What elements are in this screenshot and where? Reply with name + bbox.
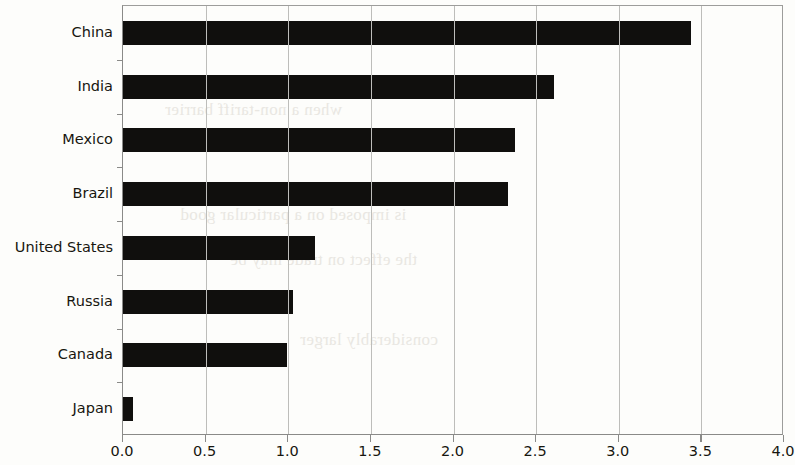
y-axis-category-labels: ChinaIndiaMexicoBrazilUnited StatesRussi… [0,5,113,435]
x-axis-tick [287,435,288,442]
x-axis-tick [535,435,536,442]
x-axis-tick [618,435,619,442]
y-axis-tick-label: India [0,78,113,94]
bar [123,21,691,45]
x-axis-tick [205,435,206,442]
y-axis-tick-label: Russia [0,293,113,309]
x-axis-tick [700,435,701,442]
x-axis-tick-label: 3.0 [606,443,629,459]
gridline [536,6,537,434]
y-axis-tick [117,114,123,115]
x-axis-tick-label: 3.5 [689,443,712,459]
x-axis-tick [122,435,123,442]
bar [123,397,133,421]
y-axis-tick-label: United States [0,239,113,255]
x-axis-tick-label: 1.5 [358,443,381,459]
bar [123,128,515,152]
bar-chart: when a non-tariff barrier is imposed on … [0,0,795,465]
x-axis-tick-label: 0.0 [110,443,133,459]
gridline [701,6,702,434]
y-axis-tick [117,275,123,276]
y-axis-tick [117,60,123,61]
gridline [454,6,455,434]
y-axis-tick-label: Brazil [0,185,113,201]
y-axis-tick-label: Japan [0,400,113,416]
bar [123,182,508,206]
x-axis-tick [783,435,784,442]
x-axis-tick [453,435,454,442]
x-axis-tick-label: 0.5 [193,443,216,459]
bar [123,75,554,99]
gridline [371,6,372,434]
y-axis-tick [117,167,123,168]
y-axis-tick-label: Mexico [0,131,113,147]
gridline [206,6,207,434]
y-axis-tick [117,221,123,222]
gridline [288,6,289,434]
x-axis-tick-label: 2.0 [441,443,464,459]
bar [123,236,315,260]
plot-area [122,5,783,435]
y-axis-tick-label: China [0,24,113,40]
y-axis-tick-label: Canada [0,346,113,362]
y-axis-tick [117,382,123,383]
x-axis-tick-label: 4.0 [771,443,794,459]
x-axis-tick [370,435,371,442]
y-axis-tick [117,329,123,330]
bar [123,290,293,314]
x-axis-tick-label: 2.5 [524,443,547,459]
gridline [619,6,620,434]
x-axis-tick-label: 1.0 [276,443,299,459]
bars-layer [123,6,782,434]
